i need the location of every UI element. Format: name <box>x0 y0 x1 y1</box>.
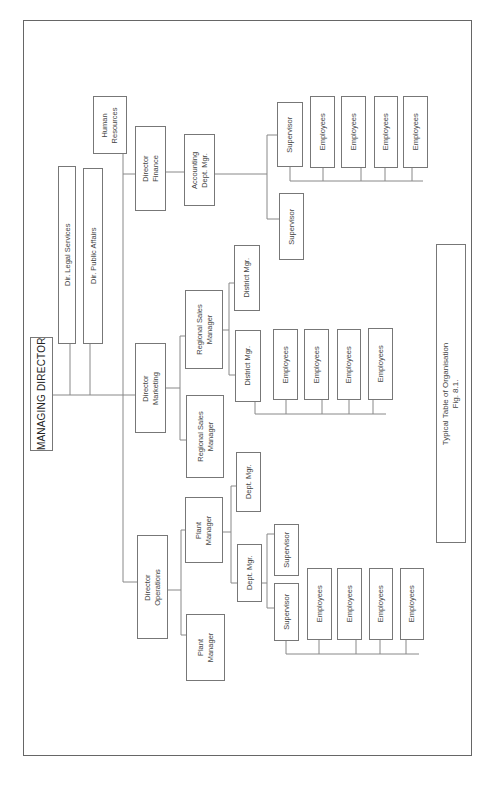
dept-mgr-box: Dept. Mgr. <box>236 452 261 512</box>
operations-employees-box: Employees <box>369 568 393 640</box>
caption-title: Typical Table of Organisation <box>441 342 451 445</box>
regional-sales-manager-box: Regional SalesManager <box>186 395 224 478</box>
node-label: Employees <box>349 113 359 150</box>
figure-caption-box: Typical Table of OrganisationFig. 8.1. <box>436 244 466 543</box>
dir-public-affairs-box: Dir. Public Affairs <box>83 168 103 344</box>
node-label: Employees <box>315 585 325 622</box>
node-label: Operations <box>153 569 163 606</box>
marketing-employees-box: Employees <box>368 328 393 400</box>
node-label: Regional Sales <box>196 411 206 461</box>
node-label: Director <box>141 372 151 405</box>
finance-employees-box: Employees <box>403 96 428 168</box>
node-label: Manager <box>205 633 215 663</box>
node-label: Marketing <box>151 372 161 405</box>
node-label: Supervisor <box>287 209 297 245</box>
node-label: Employees <box>376 585 386 622</box>
node-label: District Mgr. <box>243 346 253 386</box>
finance-supervisor-box: Supervisor <box>279 193 304 260</box>
operations-employees-box: Employees <box>307 568 332 640</box>
director-finance-box: DirectorFinance <box>135 126 166 211</box>
node-label: Employees <box>376 345 386 382</box>
finance-employees-box: Employees <box>341 96 366 168</box>
node-label: District Mgr. <box>242 258 252 298</box>
node-label: Dir. Public Affairs <box>88 228 98 285</box>
node-label: Manager <box>205 411 215 461</box>
node-label: Employees <box>407 585 417 622</box>
dir-legal-services-box: Dir. Legal Services <box>58 166 76 344</box>
node-label: Director <box>141 155 151 182</box>
human-resources-box: HumanResources <box>93 96 127 154</box>
marketing-employees-box: Employees <box>337 329 361 400</box>
node-label: Employees <box>281 346 291 383</box>
node-label: Accounting <box>190 151 200 188</box>
dept-mgr-box: Dept. Mgr. <box>237 544 262 602</box>
node-label: Dept. Mgr. <box>200 151 210 188</box>
accounting-dept-mgr-box: AccountingDept. Mgr. <box>184 134 215 206</box>
node-label: Employees <box>312 346 322 383</box>
node-label: MANAGING DIRECTOR <box>37 338 47 451</box>
node-label: Supervisor <box>282 532 292 568</box>
node-label: Director <box>143 569 153 606</box>
node-label: Employees <box>345 585 355 622</box>
operations-supervisor-box: Supervisor <box>274 583 299 641</box>
operations-employees-box: Employees <box>337 568 362 640</box>
plant-manager-box: PlantManager <box>185 497 223 563</box>
regional-sales-manager-box: Regional SalesManager <box>185 290 223 369</box>
finance-employees-box: Employees <box>310 96 335 168</box>
node-label: Regional Sales <box>195 304 205 354</box>
node-label: Supervisor <box>282 594 292 630</box>
district-mgr-box: District Mgr. <box>235 330 261 402</box>
node-label: Manager <box>204 304 214 354</box>
director-operations-box: DirectorOperations <box>137 535 168 639</box>
operations-supervisor-box: Supervisor <box>274 524 299 576</box>
node-label: Supervisor <box>285 117 295 153</box>
node-label: Manager <box>204 515 214 545</box>
operations-employees-box: Employees <box>400 568 424 640</box>
node-label: Employees <box>318 113 328 150</box>
marketing-employees-box: Employees <box>304 329 329 400</box>
node-label: Plant <box>194 515 204 545</box>
node-label: Dept. Mgr. <box>245 556 255 591</box>
director-marketing-box: DirectorMarketing <box>135 343 166 433</box>
node-label: Dir. Legal Services <box>62 224 72 287</box>
district-mgr-box: District Mgr. <box>234 245 260 311</box>
node-label: Plant <box>196 633 206 663</box>
node-label: Dept. Mgr. <box>244 465 254 500</box>
plant-manager-box: PlantManager <box>186 614 225 681</box>
node-label: Employees <box>411 113 421 150</box>
caption-figure-number: Fig. 8.1. <box>451 342 461 445</box>
node-label: Employees <box>344 346 354 383</box>
node-label: Finance <box>151 155 161 182</box>
finance-supervisor-box: Supervisor <box>277 102 303 167</box>
marketing-employees-box: Employees <box>273 329 298 400</box>
finance-employees-box: Employees <box>374 96 398 168</box>
node-label: Resources <box>110 107 120 143</box>
node-label: Human <box>101 107 111 143</box>
managing-director-box: MANAGING DIRECTOR <box>30 337 53 451</box>
node-label: Employees <box>381 113 391 150</box>
